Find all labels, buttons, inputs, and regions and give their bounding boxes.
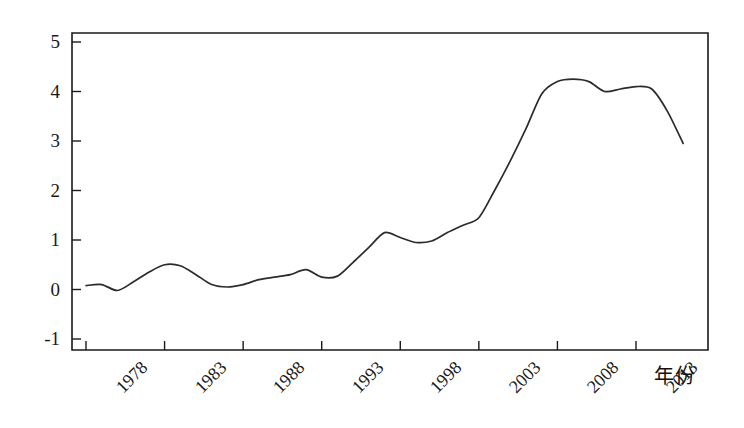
y-tick-label: 4 [20,82,60,101]
y-tick-label: 5 [20,32,60,51]
chart-figure: 543210-1 1978198319881993199820032008201… [0,0,744,428]
axes-frame [72,33,708,350]
y-tick-label: 3 [20,131,60,150]
x-axis-tick-marks [86,341,636,350]
series-line-path [86,79,683,290]
y-axis-tick-marks [72,42,81,339]
x-axis-title: 年份 [654,360,696,389]
y-tick-label: 0 [20,280,60,299]
y-tick-label: 2 [20,181,60,200]
y-tick-label: -1 [20,329,60,348]
data-series-group [86,79,683,290]
y-tick-label: 1 [20,230,60,249]
